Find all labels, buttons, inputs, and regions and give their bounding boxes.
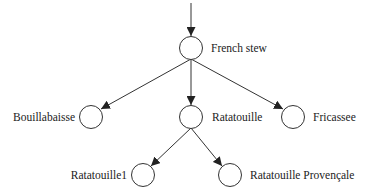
node-circle: [180, 37, 203, 60]
node-french-stew: French stew: [180, 37, 268, 60]
edge-french-stew-to-bouillabaisse: [101, 59, 191, 109]
node-circle: [132, 164, 155, 187]
node-ratatouille-provencale: Ratatouille Provençale: [219, 164, 355, 187]
node-ratatouille1: Ratatouille1: [71, 164, 155, 187]
edge-french-stew-to-fricassee: [191, 59, 283, 109]
node-circle: [219, 164, 242, 187]
node-circle: [282, 106, 305, 129]
node-label: Ratatouille1: [71, 169, 127, 181]
node-ratatouille: Ratatouille: [180, 106, 263, 129]
node-fricassee: Fricassee: [282, 106, 356, 129]
node-label: French stew: [211, 42, 268, 54]
hierarchy-diagram: French stew Bouillabaisse Ratatouille Fr…: [0, 0, 370, 194]
edge-ratatouille-to-ratatouille1: [151, 128, 191, 166]
node-bouillabaisse: Bouillabaisse: [13, 106, 102, 129]
edge-ratatouille-to-ratatouille-provencale: [191, 128, 222, 166]
node-label: Bouillabaisse: [13, 111, 75, 123]
node-label: Ratatouille: [212, 111, 262, 123]
node-circle: [180, 106, 203, 129]
node-circle: [80, 106, 103, 129]
node-label: Fricassee: [313, 111, 356, 123]
node-label: Ratatouille Provençale: [250, 169, 354, 182]
